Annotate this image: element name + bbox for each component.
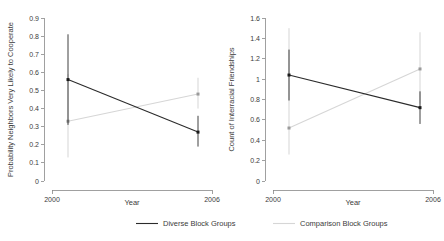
legend-label: Diverse Block Groups (163, 219, 236, 228)
x-tick-label: 2000 (44, 196, 60, 203)
x-tick-label: 2000 (265, 196, 281, 203)
y-tick-label: 1.6 (250, 15, 260, 22)
figure-container: 00.10.20.30.40.50.60.70.80.9Probability … (0, 0, 444, 241)
data-point (419, 106, 422, 109)
y-tick-label: 0 (256, 178, 260, 185)
x-axis-line (273, 190, 433, 194)
data-point (197, 93, 200, 96)
y-tick-label: 1.2 (250, 55, 260, 62)
y-tick-label: 1 (256, 76, 260, 83)
y-tick-label: 0 (35, 178, 39, 185)
data-point (197, 131, 200, 134)
y-tick-label: 0.7 (29, 51, 39, 58)
y-tick-label: 0.6 (250, 116, 260, 123)
y-tick-label: 0.3 (29, 123, 39, 130)
y-tick-label: 0.4 (29, 105, 39, 112)
chart-svg: 00.10.20.30.40.50.60.70.80.9Probability … (0, 0, 444, 241)
legend-item: Diverse Block Groups (136, 219, 236, 228)
x-tick-label: 2006 (425, 196, 441, 203)
series-diverse (288, 50, 422, 124)
data-point (288, 127, 291, 130)
y-tick-label: 0.2 (29, 141, 39, 148)
y-tick-label: 0.6 (29, 69, 39, 76)
series-line (68, 94, 198, 121)
legend-label: Comparison Block Groups (300, 219, 388, 228)
series-diverse (67, 34, 200, 146)
legend-item: Comparison Block Groups (273, 219, 388, 228)
y-tick-label: 0.9 (29, 15, 39, 22)
data-point (419, 67, 422, 70)
y-axis-title: Probability Neighbors Very Likely to Coo… (6, 22, 15, 177)
x-axis-title: Year (124, 198, 140, 207)
series-line (289, 75, 420, 108)
x-tick-label: 2006 (204, 196, 220, 203)
y-tick-label: 0.8 (250, 96, 260, 103)
y-tick-label: 0.4 (250, 137, 260, 144)
y-tick-label: 0.2 (250, 157, 260, 164)
y-tick-label: 0.5 (29, 87, 39, 94)
data-point (67, 78, 70, 81)
series-line (68, 80, 198, 133)
y-tick-label: 0.1 (29, 159, 39, 166)
panel-cooperation: 00.10.20.30.40.50.60.70.80.9Probability … (6, 15, 220, 208)
x-axis-title: Year (345, 198, 361, 207)
y-tick-label: 0.8 (29, 33, 39, 40)
data-point (288, 74, 291, 77)
series-line (289, 69, 420, 128)
y-axis-title: Count of Interracial Friendships (227, 47, 236, 151)
panel-friendships: 00.20.40.60.811.21.41.6Count of Interrac… (227, 15, 441, 208)
x-axis-line (52, 190, 212, 194)
y-tick-label: 1.4 (250, 35, 260, 42)
legend: Diverse Block GroupsComparison Block Gro… (136, 219, 388, 228)
